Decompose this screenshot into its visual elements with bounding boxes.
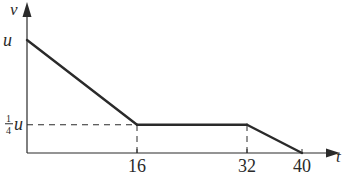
guide-lines — [27, 125, 247, 153]
y-axis-arrow — [23, 2, 32, 17]
x-tick-label: 40 — [293, 156, 311, 176]
fraction-denominator: 4 — [6, 125, 11, 136]
velocity-time-graph: v t u 1 4 u 16 32 40 — [0, 0, 343, 180]
axes — [23, 2, 341, 158]
series-segment — [247, 125, 302, 153]
fraction-variable: u — [14, 114, 23, 134]
labels: v t u 1 4 u 16 32 40 — [3, 0, 342, 176]
y-tick-label-u: u — [3, 30, 12, 50]
x-tick-label: 16 — [128, 156, 146, 176]
series-segment — [27, 40, 137, 125]
y-tick-label-quarter-u: 1 4 u — [5, 113, 23, 136]
y-axis-label: v — [10, 0, 18, 19]
series-lines — [27, 40, 302, 153]
x-axis-label: t — [336, 147, 342, 166]
fraction-numerator: 1 — [6, 113, 11, 124]
x-tick-label: 32 — [238, 156, 256, 176]
